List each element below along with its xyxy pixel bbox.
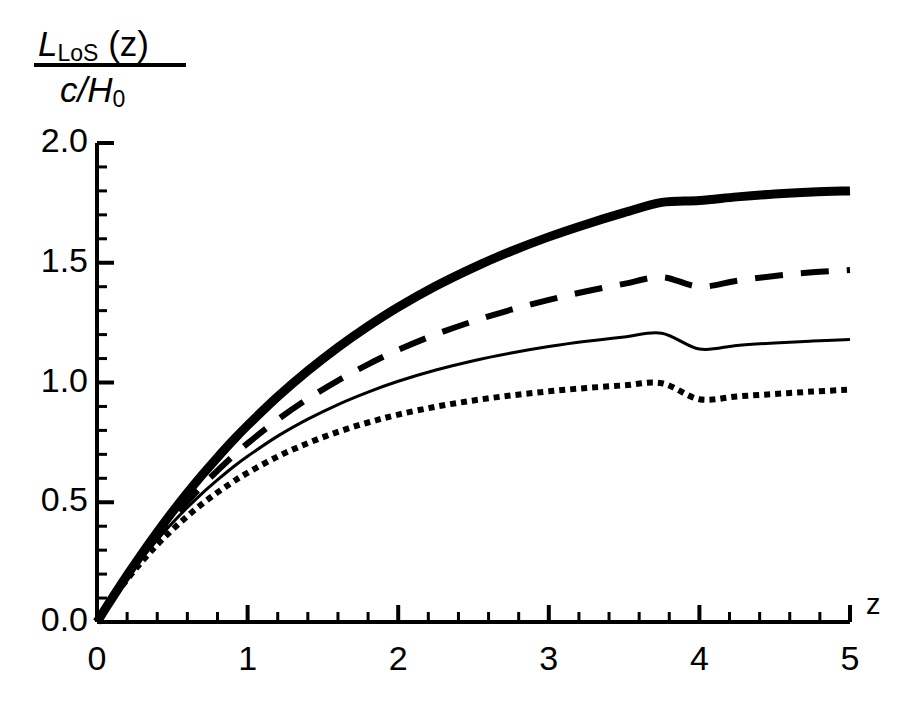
y-axis-tick-label: 0.5 <box>0 480 88 519</box>
axis-lines <box>97 143 850 622</box>
x-axis-label: z <box>866 588 881 621</box>
plot-area <box>0 0 919 712</box>
x-axis-tick-label: 0 <box>67 639 127 678</box>
y-axis-tick-label: 1.0 <box>0 361 88 400</box>
x-axis-ticks <box>97 605 850 622</box>
x-axis-tick-label: 2 <box>368 639 428 678</box>
figure-container: LLoS (z) c/H0 0.00.51.01.52.0 012345 z <box>0 0 919 712</box>
x-axis-tick-label: 3 <box>519 639 579 678</box>
y-axis-tick-label: 1.5 <box>0 241 88 280</box>
x-axis-tick-label: 4 <box>669 639 729 678</box>
thick-solid-curve <box>97 191 850 622</box>
y-axis-tick-label: 2.0 <box>0 121 88 160</box>
y-axis-ticks <box>97 143 114 622</box>
data-curves <box>97 191 850 622</box>
x-axis-tick-label: 5 <box>820 639 880 678</box>
thin-solid-curve <box>97 333 850 622</box>
y-axis-tick-label: 0.0 <box>0 600 88 639</box>
dotted-curve <box>97 382 850 622</box>
dashed-curve <box>97 270 850 622</box>
x-axis-tick-label: 1 <box>218 639 278 678</box>
